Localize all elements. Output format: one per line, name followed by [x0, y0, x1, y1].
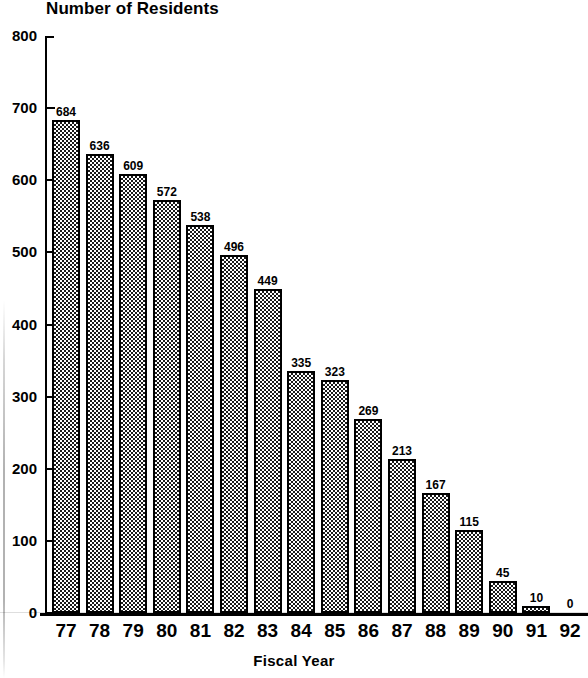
- x-axis-tick-label: 80: [151, 620, 183, 642]
- x-axis-title: Fiscal Year: [0, 652, 588, 669]
- bar-value-label: 609: [123, 160, 143, 172]
- bar-value-label: 538: [190, 211, 210, 223]
- x-axis-tick-label: 88: [420, 620, 452, 642]
- x-axis-tick-label: 86: [352, 620, 384, 642]
- bar-rect: [522, 606, 550, 613]
- bar-rect: [52, 120, 80, 613]
- bar-rect: [220, 255, 248, 613]
- bar-value-label: 213: [392, 445, 412, 457]
- bar-rect: [153, 200, 181, 613]
- bar: 115: [455, 530, 483, 613]
- bar: 572: [153, 200, 181, 613]
- bar-value-label: 572: [157, 186, 177, 198]
- bar-value-label: 684: [56, 106, 76, 118]
- bar-rect: [422, 493, 450, 613]
- bar-chart-figure: Number of Residents 80070060050040030020…: [0, 0, 588, 678]
- bar-rect: [86, 154, 114, 613]
- bar-rect: [489, 581, 517, 613]
- bar-value-label: 636: [90, 140, 110, 152]
- bar-rect: [254, 289, 282, 613]
- bar-value-label: 115: [460, 516, 479, 528]
- bar: 45: [489, 581, 517, 613]
- bar: 449: [254, 289, 282, 613]
- bar: 10: [522, 606, 550, 613]
- x-axis-tick-label: 79: [117, 620, 149, 642]
- bar-value-label: 449: [258, 275, 278, 287]
- bar-value-label: 10: [530, 592, 543, 604]
- bar: 335: [287, 371, 315, 613]
- x-axis-tick-label: 91: [520, 620, 552, 642]
- bar-rect: [354, 419, 382, 613]
- x-axis-tick-label: 83: [252, 620, 284, 642]
- x-axis-tick-label: 78: [84, 620, 116, 642]
- bar: 167: [422, 493, 450, 613]
- bar: 496: [220, 255, 248, 613]
- bar: 538: [186, 225, 214, 613]
- bar-rect: [119, 174, 147, 613]
- bar: 323: [321, 380, 349, 613]
- bar-rect: [287, 371, 315, 613]
- bar-value-label: 269: [358, 405, 378, 417]
- x-axis-tick-label: 87: [386, 620, 418, 642]
- bar: 609: [119, 174, 147, 613]
- bar: 269: [354, 419, 382, 613]
- bar-value-label: 496: [224, 241, 244, 253]
- x-axis-tick-label: 92: [554, 620, 586, 642]
- bar-rect: [388, 459, 416, 613]
- x-axis-tick-label: 89: [453, 620, 485, 642]
- x-axis-tick-label: 85: [319, 620, 351, 642]
- x-axis-tick-label: 90: [487, 620, 519, 642]
- bar-value-label: 335: [291, 357, 311, 369]
- bars-layer: 6846366095725384964493353232692131671154…: [0, 0, 588, 678]
- x-axis-tick-label: 82: [218, 620, 250, 642]
- bar-value-label: 323: [325, 366, 345, 378]
- x-axis-tick-label: 84: [285, 620, 317, 642]
- bar-value-label: 45: [496, 567, 509, 579]
- bar-rect: [186, 225, 214, 613]
- x-axis-tick-label: 81: [184, 620, 216, 642]
- bar-rect: [321, 380, 349, 613]
- bar: 0: [556, 612, 584, 613]
- x-axis-tick-label: 77: [50, 620, 82, 642]
- bar-value-label: 0: [567, 598, 574, 610]
- bar-rect: [455, 530, 483, 613]
- bar: 213: [388, 459, 416, 613]
- bar-value-label: 167: [426, 479, 446, 491]
- bar: 684: [52, 120, 80, 613]
- bar: 636: [86, 154, 114, 613]
